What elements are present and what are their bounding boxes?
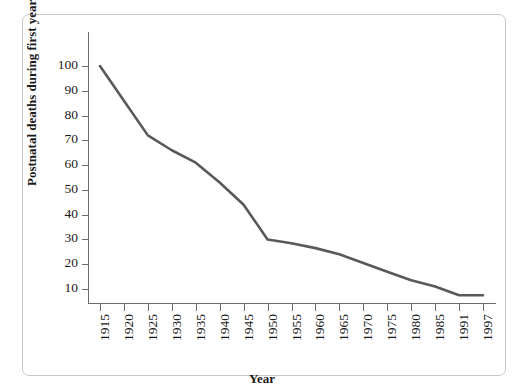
- y-tick-80: 80: [82, 116, 89, 117]
- y-tick-label-50: 50: [44, 181, 78, 197]
- y-tick-90: 90: [82, 91, 89, 92]
- y-tick-70: 70: [82, 140, 89, 141]
- x-tick-1980: [411, 304, 412, 311]
- x-tick-label-1975: 1975: [384, 314, 400, 341]
- x-tick-1940: [220, 304, 221, 311]
- x-tick-1925: [148, 304, 149, 311]
- x-tick-label-1935: 1935: [193, 314, 209, 341]
- x-tick-1935: [196, 304, 197, 311]
- y-tick-label-70: 70: [44, 131, 78, 147]
- x-tick-label-1980: 1980: [408, 314, 424, 341]
- y-tick-label-90: 90: [44, 82, 78, 98]
- x-tick-label-1970: 1970: [360, 314, 376, 341]
- x-tick-1915: [100, 304, 101, 311]
- x-tick-label-1920: 1920: [121, 314, 137, 341]
- x-tick-1975: [387, 304, 388, 311]
- x-tick-label-1955: 1955: [289, 314, 305, 341]
- x-tick-1945: [244, 304, 245, 311]
- y-tick-50: 50: [82, 190, 89, 191]
- x-tick-1991: [459, 304, 460, 311]
- y-tick-label-20: 20: [44, 255, 78, 271]
- y-tick-label-100: 100: [44, 57, 78, 73]
- y-tick-label-30: 30: [44, 230, 78, 246]
- y-tick-60: 60: [82, 165, 89, 166]
- x-axis-label: Year: [0, 371, 524, 387]
- y-tick-label-80: 80: [44, 107, 78, 123]
- x-tick-label-1997: 1997: [480, 314, 496, 341]
- x-tick-label-1930: 1930: [169, 314, 185, 341]
- y-tick-30: 30: [82, 239, 89, 240]
- y-axis-label: Postnatal deaths during first year per 1…: [24, 0, 40, 186]
- y-tick-10: 10: [82, 289, 89, 290]
- y-tick-40: 40: [82, 215, 89, 216]
- x-tick-1965: [339, 304, 340, 311]
- x-tick-label-1960: 1960: [312, 314, 328, 341]
- x-tick-label-1925: 1925: [145, 314, 161, 341]
- x-tick-label-1915: 1915: [97, 314, 113, 341]
- x-tick-label-1940: 1940: [217, 314, 233, 341]
- x-tick-label-1950: 1950: [265, 314, 281, 341]
- y-tick-label-60: 60: [44, 156, 78, 172]
- x-tick-1955: [292, 304, 293, 311]
- chart-figure: 102030405060708090100 Postnatal deaths d…: [0, 0, 524, 392]
- x-tick-label-1985: 1985: [432, 314, 448, 341]
- x-tick-label-1991: 1991: [456, 314, 472, 341]
- x-tick-1970: [363, 304, 364, 311]
- x-tick-label-1945: 1945: [241, 314, 257, 341]
- y-tick-label-10: 10: [44, 280, 78, 296]
- x-tick-label-1965: 1965: [336, 314, 352, 341]
- x-tick-1950: [268, 304, 269, 311]
- x-tick-1960: [315, 304, 316, 311]
- x-tick-1997: [483, 304, 484, 311]
- y-tick-label-40: 40: [44, 206, 78, 222]
- x-tick-1920: [124, 304, 125, 311]
- y-axis-line: [88, 32, 89, 304]
- x-tick-1930: [172, 304, 173, 311]
- x-tick-1985: [435, 304, 436, 311]
- y-tick-100: 100: [82, 66, 89, 67]
- y-tick-20: 20: [82, 264, 89, 265]
